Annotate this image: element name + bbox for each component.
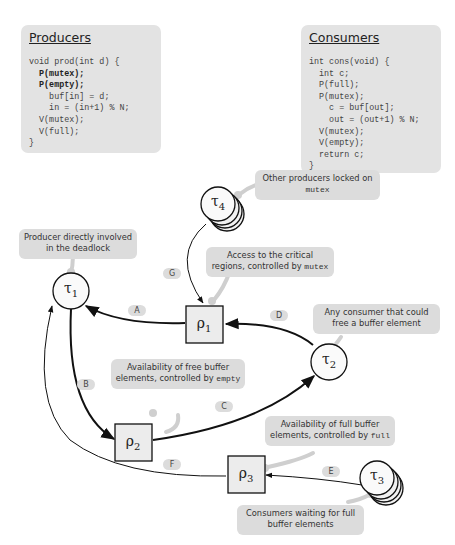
callout-stem-tau3 [348, 495, 369, 502]
edge-label-F: F [163, 459, 181, 470]
edge-label-C: C [215, 401, 233, 412]
callout-tau3: Consumers waiting for full buffer elemen… [237, 505, 364, 535]
edge-E [266, 475, 362, 485]
edge-G [187, 224, 206, 303]
callout-rho3: Availability of full buffer elements, co… [265, 416, 395, 446]
rho3-label: ρ3 [231, 465, 261, 484]
edge-label-A: A [128, 305, 146, 316]
tau3-label: τ3 [362, 467, 392, 486]
callout-rho2: Availability of free buffer elements, co… [111, 359, 245, 389]
edge-label-E: E [322, 466, 340, 477]
callout-anchor-rho2 [149, 409, 157, 417]
edge-label-D: D [270, 310, 288, 321]
callout-tau4: Other producers locked onmutex [255, 170, 380, 200]
edge-B [71, 309, 114, 439]
callout-rho1: Access to the critical regions, controll… [206, 247, 334, 277]
callout-anchor-rho1 [208, 297, 216, 305]
callout-stem-rho3 [268, 453, 313, 467]
rho1-label: ρ1 [189, 315, 219, 334]
callout-stem-rho2 [166, 415, 178, 432]
callout-tau1: Producer directly involved in the deadlo… [19, 229, 137, 259]
rho2-label: ρ2 [118, 433, 148, 452]
callout-tau2: Any consumer that could free a buffer el… [313, 304, 440, 334]
edge-label-B: B [77, 379, 95, 390]
tau4-label: τ4 [203, 193, 233, 212]
tau1-label: τ1 [56, 280, 86, 299]
tau2-label: τ2 [314, 351, 344, 370]
edge-label-G: G [163, 268, 181, 279]
edge-D [226, 324, 313, 345]
